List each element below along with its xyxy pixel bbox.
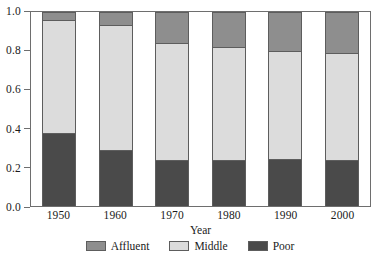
x-axis-tick-label: 1970 [155, 209, 189, 221]
legend-swatch-middle [169, 241, 189, 251]
bar-segment-poor[interactable] [325, 161, 359, 206]
bar-segment-middle[interactable] [268, 52, 302, 161]
bar-segment-poor[interactable] [212, 161, 246, 206]
y-axis-tick: 0.2 [6, 162, 30, 174]
y-axis-tick-label: 0.4 [6, 123, 24, 135]
x-axis: 195019601970198019902000 [30, 209, 371, 225]
bar-segment-affluent[interactable] [268, 12, 302, 52]
bar-segment-poor[interactable] [155, 161, 189, 206]
stacked-bar-chart: 0.00.20.40.60.81.0 195019601970198019902… [0, 0, 380, 261]
bar-segment-affluent[interactable] [325, 12, 359, 54]
bar-segment-middle[interactable] [155, 44, 189, 161]
bar-segment-poor[interactable] [268, 160, 302, 206]
bar-segment-affluent[interactable] [212, 12, 246, 48]
y-axis-tick-label: 0.8 [6, 44, 24, 56]
y-axis-tick-label: 0.0 [6, 201, 24, 213]
y-axis-tick: 0.0 [6, 201, 30, 213]
x-axis-title: Year [30, 224, 371, 236]
y-axis-tick-label: 0.6 [6, 83, 24, 95]
y-axis-tick-label: 1.0 [6, 5, 24, 17]
bar-stack[interactable] [325, 12, 359, 206]
bar-stack[interactable] [155, 12, 189, 206]
legend-item-middle[interactable]: Middle [169, 240, 227, 252]
bar-stack[interactable] [99, 12, 133, 206]
bar-segment-poor[interactable] [42, 134, 76, 206]
x-axis-tick-label: 1950 [41, 209, 75, 221]
y-axis-tick: 0.6 [6, 83, 30, 95]
chart-legend: AffluentMiddlePoor [0, 240, 380, 252]
legend-label: Poor [273, 240, 295, 252]
bar-stack[interactable] [212, 12, 246, 206]
plot-area [30, 11, 371, 207]
bar-segment-affluent[interactable] [155, 12, 189, 44]
legend-item-affluent[interactable]: Affluent [86, 240, 150, 252]
y-axis: 0.00.20.40.60.81.0 [0, 11, 30, 207]
bar-segment-middle[interactable] [99, 26, 133, 151]
x-axis-tick-label: 1990 [269, 209, 303, 221]
bar-segment-affluent[interactable] [99, 12, 133, 26]
y-axis-tick-label: 0.2 [6, 162, 24, 174]
bar-segment-poor[interactable] [99, 151, 133, 206]
bar-segment-middle[interactable] [212, 48, 246, 161]
y-axis-tick: 0.8 [6, 44, 30, 56]
legend-swatch-affluent [86, 241, 106, 251]
y-axis-tick: 0.4 [6, 123, 30, 135]
bar-stack[interactable] [42, 12, 76, 206]
legend-item-poor[interactable]: Poor [248, 240, 295, 252]
legend-label: Middle [194, 240, 227, 252]
y-axis-tick: 1.0 [6, 5, 30, 17]
legend-swatch-poor [248, 241, 268, 251]
x-axis-tick-label: 1980 [212, 209, 246, 221]
bar-segment-middle[interactable] [325, 54, 359, 162]
bars-layer [31, 12, 370, 206]
bar-segment-middle[interactable] [42, 21, 76, 134]
x-axis-tick-label: 1960 [98, 209, 132, 221]
x-axis-tick-label: 2000 [326, 209, 360, 221]
bar-stack[interactable] [268, 12, 302, 206]
bar-segment-affluent[interactable] [42, 12, 76, 21]
legend-label: Affluent [111, 240, 150, 252]
